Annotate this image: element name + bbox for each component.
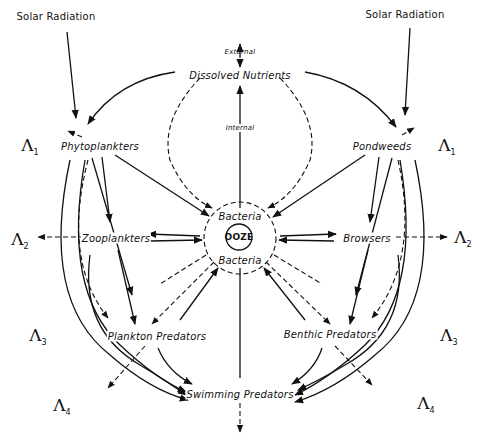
bacteria-top-node: Bacteria bbox=[218, 211, 261, 222]
solar-right-arrow bbox=[405, 28, 410, 115]
browsers-node: Browsers bbox=[342, 233, 392, 244]
plankton-predators-node: Plankton Predators bbox=[107, 331, 207, 342]
swimming-predators-node: Swimming Predators bbox=[185, 389, 294, 400]
bacteria-bottom-node: Bacteria bbox=[217, 255, 262, 266]
internal-label: Internal bbox=[225, 124, 256, 132]
phytoplankters-node: Phytoplankters bbox=[61, 141, 139, 152]
benthic-predators-node: Benthic Predators bbox=[283, 329, 378, 340]
external-label: External bbox=[225, 48, 256, 56]
dissolved-nutrients-node: Dissolved Nutrients bbox=[189, 70, 290, 81]
lambda-2-left: Λ2 bbox=[11, 229, 28, 251]
solar-radiation-left: Solar Radiation bbox=[17, 11, 96, 22]
solar-left-arrow bbox=[67, 32, 76, 118]
lambda-1-left: Λ1 bbox=[21, 135, 38, 157]
lambda-4-right: Λ4 bbox=[417, 393, 434, 415]
lambda-2-right: Λ2 bbox=[454, 227, 471, 249]
lambda-1-right: Λ1 bbox=[438, 135, 455, 157]
pondweeds-node: Pondweeds bbox=[353, 141, 412, 152]
food-web-diagram: Solar Radiation Solar Radiation External… bbox=[0, 0, 487, 442]
lambda-4-left: Λ4 bbox=[53, 395, 70, 417]
solar-radiation-right: Solar Radiation bbox=[366, 9, 445, 20]
ooze-node: OOZE bbox=[225, 232, 254, 242]
zooplankters-node: Zooplankters bbox=[81, 233, 151, 244]
lambda-3-right: Λ3 bbox=[440, 325, 457, 347]
lambda-3-left: Λ3 bbox=[29, 325, 46, 347]
